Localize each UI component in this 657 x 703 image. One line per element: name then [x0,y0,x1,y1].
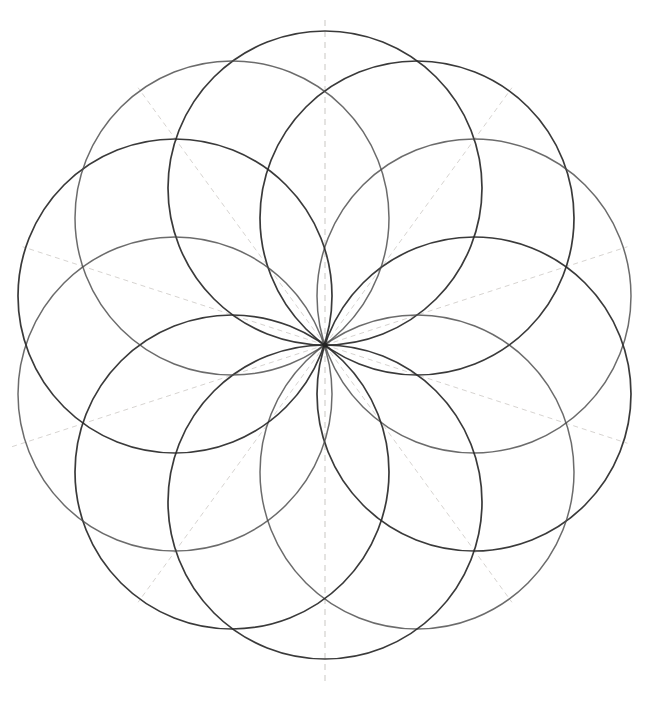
drawing-canvas: Ten-circle rosette geometric constructio… [0,0,657,703]
center-point-layer [322,342,327,347]
center-convergence-point [322,342,327,347]
rosette-figure [0,0,657,703]
paper-background [0,0,657,703]
